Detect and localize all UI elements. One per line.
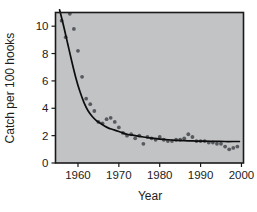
data-point	[141, 142, 145, 146]
data-point	[186, 132, 190, 136]
data-point	[109, 116, 113, 120]
chart-figure: 0246810 19601970198019902000 Year Catch …	[0, 0, 257, 212]
data-point	[235, 145, 239, 149]
y-tick-label: 10	[36, 20, 49, 32]
data-point	[117, 126, 121, 130]
data-point	[215, 142, 219, 146]
catch-per-hooks-scatter-chart: 0246810 19601970198019902000 Year Catch …	[0, 0, 257, 212]
x-tick-label: 1970	[106, 169, 132, 181]
x-tick-label: 1960	[65, 169, 91, 181]
data-point	[105, 117, 109, 121]
x-tick-label: 1990	[188, 169, 214, 181]
data-point	[92, 109, 96, 113]
x-tick-label: 2000	[229, 169, 255, 181]
plot-area-background	[56, 13, 244, 164]
x-axis-title: Year	[138, 189, 162, 203]
data-point	[72, 27, 76, 31]
y-tick-label: 6	[42, 75, 48, 87]
data-point	[231, 146, 235, 150]
y-tick-label: 2	[42, 130, 48, 142]
data-point	[113, 120, 117, 124]
y-tick-label: 8	[42, 48, 48, 60]
data-point	[219, 142, 223, 146]
x-tick-label: 1980	[147, 169, 173, 181]
data-point	[133, 136, 137, 140]
y-tick-label: 4	[42, 102, 49, 114]
data-point	[227, 147, 231, 151]
data-point	[76, 49, 80, 53]
data-point	[182, 136, 186, 140]
y-axis-title: Catch per 100 hooks	[3, 33, 17, 144]
y-tick-label: 0	[42, 157, 48, 169]
data-point	[191, 135, 195, 139]
data-point	[88, 102, 92, 106]
data-point	[80, 75, 84, 79]
data-point	[223, 145, 227, 149]
data-point	[84, 97, 88, 101]
